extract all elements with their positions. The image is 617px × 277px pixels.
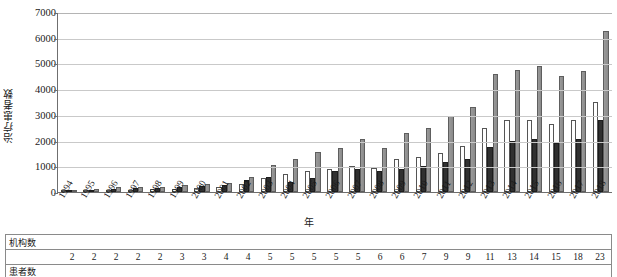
table-cell: 2 (83, 251, 105, 263)
table-cell: 4 (215, 251, 237, 263)
gridline (58, 167, 612, 168)
table-cell: 18 (567, 251, 589, 263)
y-tick-label: 1000 (16, 162, 56, 172)
gridline (58, 39, 612, 40)
x-axis-title: 年 (0, 214, 617, 229)
table-cell: 14 (523, 251, 545, 263)
bar-series-3-1995 (94, 189, 99, 192)
y-tick-mark (54, 13, 58, 14)
table-cell: 6 (369, 251, 391, 263)
bar-series-3-2013 (493, 74, 498, 192)
table-cell: 5 (303, 251, 325, 263)
gridline (58, 142, 612, 143)
bar-series-3-2012 (470, 107, 475, 192)
y-tick-mark (54, 64, 58, 65)
y-tick-mark (54, 39, 58, 40)
table-cell: 2 (105, 251, 127, 263)
table-cell: 3 (171, 251, 193, 263)
table-cell: 6 (391, 251, 413, 263)
bar-series-3-2014 (515, 70, 520, 192)
y-tick-label: 4000 (16, 85, 56, 95)
gridline (58, 116, 612, 117)
y-tick-mark (54, 90, 58, 91)
y-tick-mark (54, 167, 58, 168)
table-cell: 13 (501, 251, 523, 263)
table-cell: 5 (259, 251, 281, 263)
table-cell: 5 (347, 251, 369, 263)
table-cell: 9 (457, 251, 479, 263)
y-tick-label: 3000 (16, 111, 56, 121)
bar-series-3-1994 (72, 190, 77, 192)
y-tick-label: 6000 (16, 34, 56, 44)
institution-counts: 2222233445555566799111314151823 (61, 251, 611, 263)
table-cell: 4 (237, 251, 259, 263)
gridline (58, 13, 612, 14)
table-cell: 3 (193, 251, 215, 263)
row-label-institutions: 机构数 (6, 236, 61, 249)
y-tick-label: 7000 (16, 8, 56, 18)
table-row-institutions: 机构数 (6, 235, 611, 250)
y-tick-label: 5000 (16, 59, 56, 69)
y-tick-label: 0 (16, 188, 56, 198)
y-axis-ticks: 70006000500040003000200010000 (14, 0, 56, 232)
plot-area (57, 13, 612, 193)
table-cell: 9 (435, 251, 457, 263)
table-cell: 2 (61, 251, 83, 263)
table-row-patients: 患者数 (6, 265, 611, 277)
data-table: 机构数 2222233445555566799111314151823 患者数 (5, 234, 612, 277)
table-cell: 7 (413, 251, 435, 263)
y-tick-label: 2000 (16, 137, 56, 147)
table-cell: 5 (325, 251, 347, 263)
table-cell: 5 (281, 251, 303, 263)
row-label-patients: 患者数 (6, 265, 61, 277)
gridline (58, 64, 612, 65)
table-cell: 2 (127, 251, 149, 263)
gridline (58, 90, 612, 91)
table-cell: 23 (589, 251, 611, 263)
bar-series-3-2015 (537, 66, 542, 192)
table-cell: 15 (545, 251, 567, 263)
bar-series-3-2016 (559, 76, 564, 192)
y-tick-mark (54, 116, 58, 117)
table-cell: 2 (149, 251, 171, 263)
y-tick-mark (54, 142, 58, 143)
bar-chart: 治疗患者数 70006000500040003000200010000 1994… (0, 0, 617, 232)
table-row-values: 2222233445555566799111314151823 (6, 250, 611, 265)
table-cell: 11 (479, 251, 501, 263)
